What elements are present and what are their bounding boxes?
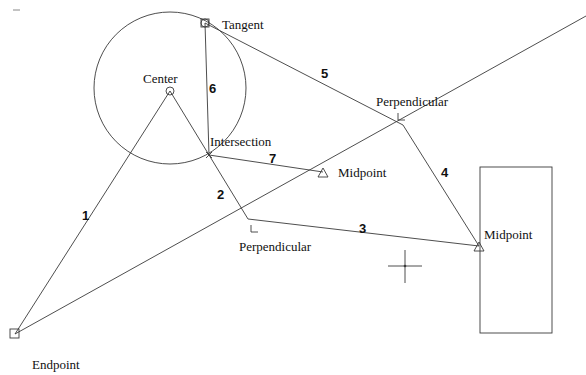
segment-number-4: 4: [441, 166, 448, 179]
label-intersection: Intersection: [210, 135, 271, 148]
segment-7[interactable]: [209, 155, 323, 172]
rectangle[interactable]: [480, 167, 552, 333]
segment-number-7: 7: [269, 152, 276, 165]
segment-number-2: 2: [217, 188, 224, 201]
segment-5[interactable]: [205, 23, 403, 125]
label-endpoint: Endpoint: [32, 358, 80, 371]
segment-number-3: 3: [359, 222, 366, 235]
midpoint-rect-marker-icon: [474, 242, 484, 251]
diagram-drawing: [0, 0, 586, 375]
label-perpendicular-upper: Perpendicular: [376, 95, 448, 108]
midpoint-inner-marker-icon: [318, 168, 328, 177]
segment-4[interactable]: [403, 125, 479, 246]
diagram-canvas: Tangent Center Intersection Perpendicula…: [0, 0, 586, 375]
construction-line[interactable]: [15, 16, 586, 334]
segment-1[interactable]: [15, 91, 170, 334]
perpendicular-lower-marker-icon: [251, 225, 258, 232]
segment-number-5: 5: [321, 67, 328, 80]
label-midpoint-rect: Midpoint: [484, 228, 532, 241]
crosshair-cursor-icon: [388, 250, 422, 283]
segment-number-1: 1: [82, 209, 89, 222]
label-perpendicular-lower: Perpendicular: [239, 240, 311, 253]
label-midpoint-inner: Midpoint: [338, 166, 386, 179]
label-tangent: Tangent: [222, 18, 264, 31]
segment-number-6: 6: [209, 82, 216, 95]
label-center: Center: [143, 72, 178, 85]
